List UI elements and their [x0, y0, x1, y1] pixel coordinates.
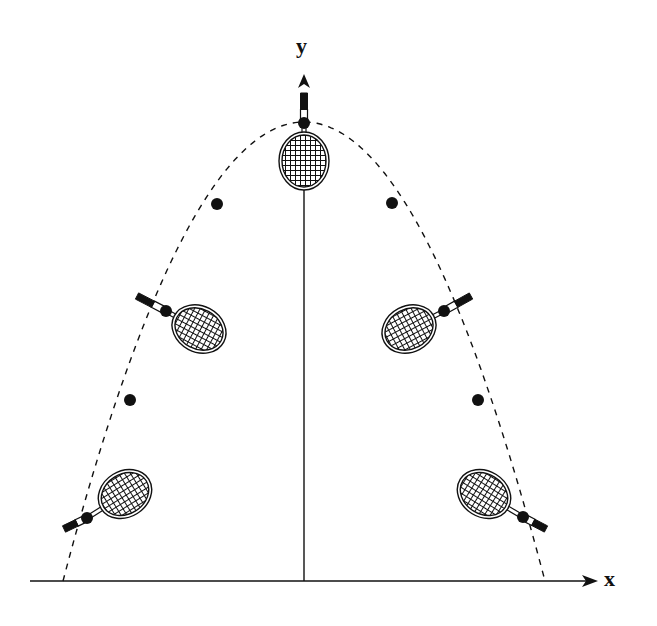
- racket-strings: [93, 464, 157, 524]
- racket-strings: [452, 464, 516, 524]
- ball-right-upper: [386, 197, 398, 209]
- trajectory-diagram: [0, 0, 657, 626]
- racket-strings: [168, 300, 231, 359]
- ball-left-upper: [211, 198, 223, 210]
- ball-right-lower: [472, 394, 484, 406]
- ball-left-middle: [160, 305, 172, 317]
- racket-left-bottom: [62, 460, 160, 533]
- x-axis: [30, 575, 598, 587]
- racket-right-bottom: [448, 460, 548, 532]
- ball-right-bottom: [517, 511, 529, 523]
- y-axis-label: y: [296, 35, 307, 57]
- ball-left-bottom: [81, 512, 93, 524]
- ball-left-lower: [124, 394, 136, 406]
- racket-strings: [378, 300, 441, 359]
- rackets: [62, 93, 547, 532]
- racket-top: [279, 93, 329, 190]
- ball-right-middle: [438, 305, 450, 317]
- x-axis-label: x: [604, 568, 615, 590]
- racket-strings: [282, 135, 326, 187]
- racket-left-middle: [135, 293, 234, 363]
- racket-right-middle: [373, 293, 472, 363]
- ball-top: [298, 117, 310, 129]
- y-axis-arrowhead-icon: [298, 74, 310, 88]
